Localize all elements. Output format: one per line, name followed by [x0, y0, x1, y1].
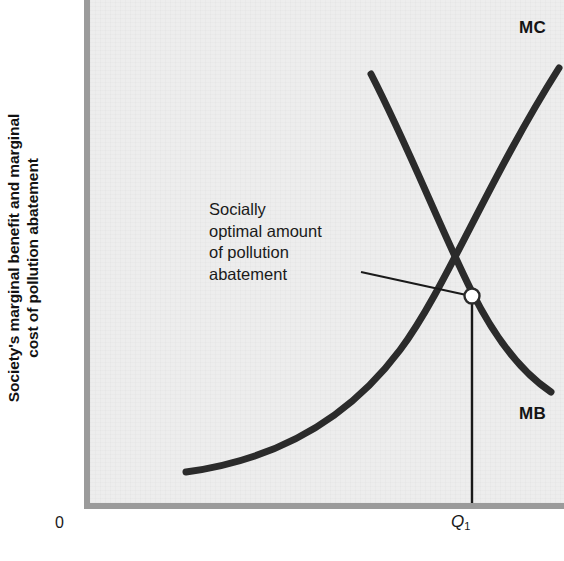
- y-axis-title-line-2: cost of pollution abatement: [23, 113, 42, 401]
- mc-curve-label: MC: [519, 18, 546, 38]
- annotation-line-1: Socially: [209, 199, 322, 221]
- mb-curve-label: MB: [519, 404, 546, 424]
- socially-optimal-point-marker: [465, 289, 480, 304]
- annotation-line-2: optimal amount: [209, 221, 322, 243]
- economics-chart-figure: Society's marginal benefit and marginal …: [0, 0, 564, 561]
- q1-axis-label: Q1: [451, 512, 470, 532]
- curves-svg: [90, 0, 564, 503]
- plot-area: [84, 0, 564, 509]
- annotation-line-4: abatement: [209, 264, 322, 286]
- q1-letter: Q: [451, 512, 464, 531]
- annotation-leader-line: [361, 272, 471, 296]
- y-axis-title: Society's marginal benefit and marginal …: [0, 0, 46, 515]
- annotation-line-3: of pollution: [209, 242, 322, 264]
- y-axis-title-text: Society's marginal benefit and marginal …: [4, 113, 42, 401]
- socially-optimal-annotation: Socially optimal amount of pollution aba…: [209, 199, 322, 285]
- q1-subscript: 1: [464, 520, 470, 532]
- y-axis-title-line-1: Society's marginal benefit and marginal: [4, 113, 23, 401]
- origin-label: 0: [55, 514, 64, 532]
